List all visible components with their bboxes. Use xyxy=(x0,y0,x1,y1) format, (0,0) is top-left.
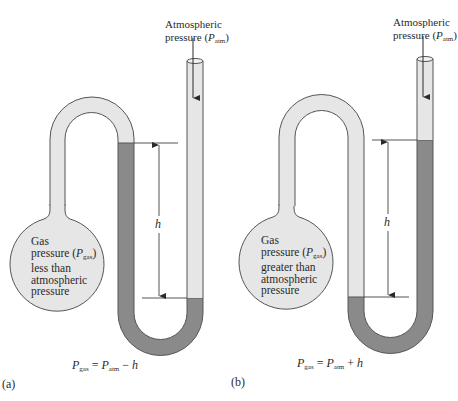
manometer-b xyxy=(239,36,433,354)
atm-label-line1: Atmospheric xyxy=(165,19,229,30)
gas-label-line: pressure xyxy=(31,286,96,298)
gas-label-line: less than xyxy=(31,263,96,275)
atm-label-b: Atmospheric pressure (Patm) xyxy=(393,17,457,45)
atm-label-a: Atmospheric pressure (Patm) xyxy=(165,19,229,47)
height-indicator-b xyxy=(364,140,417,297)
panel-label-a: (a) xyxy=(2,377,15,392)
gas-label-b: Gas pressure (Pgas) greater than atmosph… xyxy=(261,235,326,297)
atm-label-line2: pressure (Patm) xyxy=(393,30,457,45)
open-tube-b xyxy=(417,57,433,141)
equation-b: Pgas = Patm + h xyxy=(297,356,363,371)
atm-label-line2: pressure (Patm) xyxy=(165,32,229,47)
gas-label-line: pressure xyxy=(261,285,326,297)
open-tube-a xyxy=(187,59,203,299)
gas-label-line: pressure (Pgas) xyxy=(31,248,96,264)
manometer-diagrams xyxy=(0,0,458,401)
gas-label-line: greater than xyxy=(261,262,326,274)
gas-label-line: pressure (Pgas) xyxy=(261,247,326,263)
gas-label-a: Gas pressure (Pgas) less than atmospheri… xyxy=(31,236,96,298)
equation-a: Pgas = Patm − h xyxy=(72,358,138,373)
panel-label-b: (b) xyxy=(231,375,245,390)
height-label-a: h xyxy=(155,216,161,233)
atm-label-line1: Atmospheric xyxy=(393,17,457,28)
height-label-b: h xyxy=(384,214,390,231)
manometer-a xyxy=(10,38,203,356)
